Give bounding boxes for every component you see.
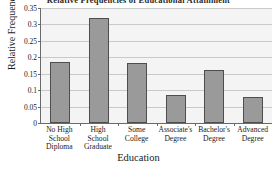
- gridline: [41, 90, 272, 91]
- chart-title: Relative Frequencies of Educational Atta…: [0, 0, 277, 5]
- gridline: [41, 57, 272, 58]
- x-tick-label: AdvancedDegree: [233, 126, 272, 152]
- x-tick-label: SomeCollege: [117, 126, 156, 152]
- bar: [166, 95, 186, 123]
- y-tick-label: 0.25: [24, 36, 37, 45]
- y-tick-label: 0.3: [28, 20, 37, 29]
- bar: [127, 63, 147, 123]
- x-tick-label: High SchoolGraduate: [79, 126, 118, 152]
- gridline: [41, 107, 272, 108]
- y-tick-mark: [38, 74, 41, 75]
- y-tick-mark: [38, 41, 41, 42]
- y-tick-label: 0.05: [24, 102, 37, 111]
- y-tick-mark: [38, 57, 41, 58]
- y-tick-mark: [38, 90, 41, 91]
- y-tick-mark: [38, 8, 41, 9]
- x-tick-label-line: High School: [80, 126, 117, 143]
- bar: [89, 18, 109, 123]
- bar-chart-figure: Relative Frequencies of Educational Atta…: [0, 0, 277, 169]
- y-tick-label: 0.1: [28, 86, 37, 95]
- x-tick-label: No HighSchoolDiploma: [40, 126, 79, 152]
- y-axis-title: Relative Frequency: [5, 0, 19, 81]
- x-axis-title: Education: [0, 152, 277, 163]
- y-tick-mark: [38, 107, 41, 108]
- gridline: [41, 24, 272, 25]
- y-tick-mark: [38, 123, 41, 124]
- gridline: [41, 74, 272, 75]
- x-tick-label-line: College: [118, 135, 155, 144]
- x-tick-label-line: Graduate: [80, 143, 117, 152]
- x-tick-label-line: Degree: [234, 135, 271, 144]
- bar: [204, 70, 224, 123]
- x-tick-label-line: Diploma: [41, 143, 78, 152]
- plot-area: 00.050.10.150.20.250.30.35: [40, 8, 272, 124]
- x-axis-tick-labels: No HighSchoolDiplomaHigh SchoolGraduateS…: [40, 126, 272, 152]
- y-tick-label: 0.35: [24, 4, 37, 13]
- y-tick-label: 0.15: [24, 69, 37, 78]
- x-tick-label-line: Degree: [157, 135, 194, 144]
- bar: [243, 97, 263, 123]
- gridline: [41, 41, 272, 42]
- x-tick-label: Bachelor'sDegree: [195, 126, 234, 152]
- bar: [50, 62, 70, 123]
- y-tick-label: 0: [33, 119, 37, 128]
- y-tick-label: 0.2: [28, 53, 37, 62]
- y-tick-mark: [38, 24, 41, 25]
- x-tick-label: Associate'sDegree: [156, 126, 195, 152]
- gridline: [41, 8, 272, 9]
- x-tick-label-line: Degree: [196, 135, 233, 144]
